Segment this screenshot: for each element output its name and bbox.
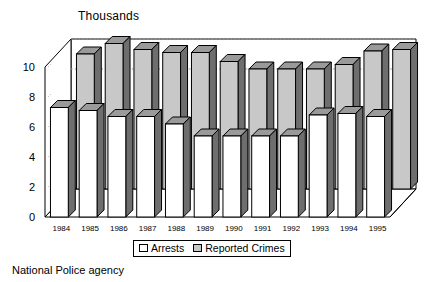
bar-side-face — [97, 104, 104, 218]
x-tick-label: 1987 — [139, 224, 157, 233]
bar-front-face — [280, 136, 298, 217]
bar-side-face — [385, 110, 392, 218]
bar-side-face — [356, 107, 363, 218]
x-tick-label: 1994 — [340, 224, 358, 233]
x-tick-label: 1984 — [52, 224, 70, 233]
legend-item-reported-crimes: Reported Crimes — [193, 242, 284, 254]
y-tick-label: 4 — [29, 151, 35, 163]
bar-front-face — [223, 136, 241, 217]
bar-front-face — [165, 124, 183, 217]
bar-side-face — [298, 129, 305, 217]
chart-source-caption: National Police agency — [12, 264, 124, 276]
bar-front-face — [309, 115, 327, 217]
bar-front-face — [137, 117, 155, 218]
bar-front-face — [50, 108, 68, 218]
bar-side-face — [270, 129, 277, 217]
bar-front-face — [338, 114, 356, 218]
chart-figure: Thousands 0246810 1984198519861987198819… — [0, 0, 443, 282]
x-tick-label: 1986 — [110, 224, 128, 233]
y-tick-label: 0 — [29, 211, 35, 223]
x-tick-label: 1988 — [167, 224, 185, 233]
bar-side-face — [327, 108, 334, 217]
y-tick-label: 6 — [29, 121, 35, 133]
white-square-icon — [139, 244, 148, 252]
bar-side-face — [241, 129, 248, 217]
gray-square-icon — [193, 244, 202, 252]
bar-side-face — [212, 129, 219, 217]
bar-front-face — [79, 111, 97, 218]
bar-side-face — [183, 117, 190, 217]
y-tick-label: 8 — [29, 91, 35, 103]
x-tick-label: 1990 — [225, 224, 243, 233]
bar-front-face — [252, 136, 270, 217]
chart-legend: Arrests Reported Crimes — [133, 240, 291, 257]
x-tick-label: 1991 — [254, 224, 272, 233]
bar-front-face — [393, 50, 411, 190]
y-tick-label: 10 — [23, 61, 35, 73]
y-tick-label: 2 — [29, 181, 35, 193]
x-tick-label: 1992 — [282, 224, 300, 233]
x-axis-tick-labels: 1984198519861987198819891990199119921993… — [52, 224, 387, 233]
bar-front-face — [108, 117, 126, 218]
legend-label-reported-crimes: Reported Crimes — [205, 242, 284, 254]
legend-item-arrests: Arrests — [139, 242, 184, 254]
bar-side-face — [411, 43, 418, 190]
x-tick-label: 1985 — [81, 224, 99, 233]
bar-front-face — [194, 136, 212, 217]
x-tick-label: 1993 — [311, 224, 329, 233]
y-axis-tick-labels: 0246810 — [23, 61, 35, 223]
bar-side-face — [68, 101, 75, 218]
bar-front-face — [367, 117, 385, 218]
x-tick-label: 1995 — [369, 224, 387, 233]
x-tick-label: 1989 — [196, 224, 214, 233]
bar-side-face — [155, 110, 162, 218]
legend-label-arrests: Arrests — [151, 242, 184, 254]
bar-side-face — [126, 110, 133, 218]
